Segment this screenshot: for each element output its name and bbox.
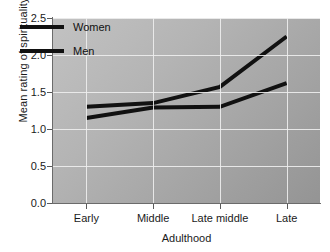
x-axis-tick-mark bbox=[220, 204, 221, 209]
legend-entry-women: Women bbox=[20, 18, 111, 36]
gridline-vertical bbox=[287, 18, 288, 203]
spirituality-line-chart: Mean rating of spirituality 0.00.51.01.5… bbox=[0, 0, 330, 252]
x-axis-line bbox=[52, 203, 321, 204]
legend-swatch-icon bbox=[20, 49, 64, 53]
x-axis-tick-mark bbox=[153, 204, 154, 209]
y-axis-tick-label: 0.0 bbox=[20, 198, 46, 209]
x-axis-tick-label: Middle bbox=[137, 212, 169, 224]
y-axis-tick-label: 1.0 bbox=[20, 124, 46, 135]
legend: WomenMen bbox=[20, 18, 111, 66]
x-axis-tick-label: Early bbox=[74, 212, 99, 224]
y-axis-tick-mark bbox=[47, 92, 52, 93]
gridline-vertical bbox=[153, 18, 154, 203]
gridline-horizontal bbox=[53, 129, 320, 130]
legend-swatch-icon bbox=[20, 25, 64, 29]
x-axis-tick-mark bbox=[86, 204, 87, 209]
y-axis-tick-mark bbox=[47, 129, 52, 130]
y-axis-tick-mark bbox=[47, 166, 52, 167]
gridline-vertical bbox=[220, 18, 221, 203]
x-axis-tick-label: Late bbox=[276, 212, 297, 224]
x-axis-title: Adulthood bbox=[53, 232, 320, 244]
gridline-horizontal bbox=[53, 166, 320, 167]
legend-label: Women bbox=[73, 22, 111, 33]
x-axis-tick-label: Late middle bbox=[191, 212, 248, 224]
series-line-women bbox=[86, 37, 286, 107]
y-axis-tick-label: 0.5 bbox=[20, 161, 46, 172]
y-axis-tick-label: 1.5 bbox=[20, 87, 46, 98]
x-axis-tick-mark bbox=[287, 204, 288, 209]
legend-entry-men: Men bbox=[20, 42, 111, 60]
legend-label: Men bbox=[73, 46, 94, 57]
gridline-horizontal bbox=[53, 92, 320, 93]
y-axis-tick-mark bbox=[47, 18, 52, 19]
series-line-men bbox=[86, 83, 286, 118]
y-axis-tick-mark bbox=[47, 55, 52, 56]
y-axis-tick-mark bbox=[47, 203, 52, 204]
